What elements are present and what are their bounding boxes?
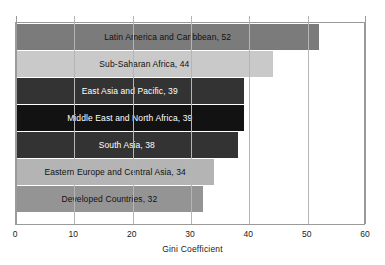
- plot-area: Latin America and Caribbean, 52Sub-Sahar…: [15, 22, 365, 225]
- x-tick-label: 10: [69, 229, 78, 239]
- bar-value-label: Sub-Saharan Africa, 44: [16, 51, 273, 77]
- bar-value-label: Eastern Europe and Central Asia, 34: [16, 159, 214, 185]
- x-tick-label: 50: [302, 229, 311, 239]
- x-tick-label: 30: [185, 229, 194, 239]
- bar-row: Latin America and Caribbean, 52: [16, 24, 319, 50]
- bar-row: South Asia, 38: [16, 132, 238, 158]
- bar-row: East Asia and Pacific, 39: [16, 78, 244, 104]
- bar-value-label: East Asia and Pacific, 39: [16, 78, 244, 104]
- bar-row: Developed Countries, 32: [16, 186, 203, 212]
- x-tick-label: 60: [360, 229, 369, 239]
- gini-coefficient-bar-chart: Latin America and Caribbean, 52Sub-Sahar…: [0, 0, 385, 265]
- bar-value-label: South Asia, 38: [16, 132, 238, 158]
- bar-row: Eastern Europe and Central Asia, 34: [16, 159, 214, 185]
- bars-layer: Latin America and Caribbean, 52Sub-Sahar…: [16, 23, 364, 224]
- bar-value-label: Developed Countries, 32: [16, 186, 203, 212]
- bar-row: Sub-Saharan Africa, 44: [16, 51, 273, 77]
- gridline: [365, 16, 366, 224]
- x-axis-title: Gini Coefficient: [0, 244, 385, 254]
- bar-value-label: Latin America and Caribbean, 52: [16, 24, 319, 50]
- x-tick-label: 0: [13, 229, 18, 239]
- bar-row: Middle East and North Africa, 39: [16, 105, 244, 131]
- x-tick-label: 40: [244, 229, 253, 239]
- x-tick-label: 20: [127, 229, 136, 239]
- bar-value-label: Middle East and North Africa, 39: [16, 105, 244, 131]
